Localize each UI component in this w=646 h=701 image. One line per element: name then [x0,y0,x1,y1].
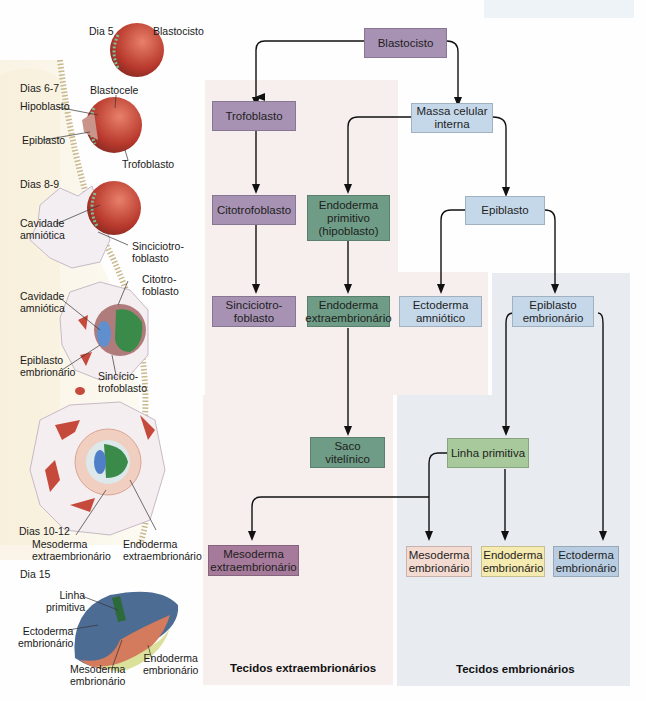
node-epiblasto-embrionario: Epiblasto embrionário [512,296,594,327]
node-ectoderma-embrionario: Ectoderma embrionário [553,546,619,577]
node-mesoderma-embrionario: Mesoderma embrionário [406,546,472,577]
label-ectoderma-embrionario: Ectoderma embrionário [18,625,73,649]
label-tecidos-embrionarios: Tecidos embrionários [456,663,575,675]
label-sinciciotrofoblasto-2: Sincício- trofoblasto [98,370,147,394]
label-dias1012: Dias 10-12 [19,525,70,537]
node-endoderma-embrionario: Endoderma embrionário [481,546,545,577]
label-dia5: Dia 5 [89,25,114,37]
node-trofoblasto: Trofoblasto [212,101,296,131]
label-trofoblasto: Trofoblasto [122,158,174,170]
label-mesoderma-embrionario: Mesoderma embrionário [70,663,125,687]
node-sinciciotrofoblasto: Sinciciotro- foblasto [212,296,296,327]
node-epiblasto: Epiblasto [465,196,545,225]
label-tecidos-extraembrionarios: Tecidos extraembrionários [230,662,376,674]
node-saco-vitelinico: Saco vitelínico [310,437,385,468]
label-dia15: Dia 15 [20,568,50,580]
node-linha-primitiva: Linha primitiva [447,438,529,468]
label-mesoderma-extraembrionario: Mesoderma extraembrionário [32,538,111,562]
label-hipoblasto: Hipoblasto [20,100,70,112]
label-dias67: Dias 6-7 [20,82,59,94]
node-endoderma-extraembrionario: Endoderma extraembrionário [307,296,390,327]
label-blastocele: Blastocele [90,84,138,96]
node-mesoderma-extraembrionario: Mesoderma extraembrionário [208,545,299,576]
node-blastocisto: Blastocisto [364,28,447,58]
label-cavidade-amniotica-2: Cavidade amniótica [20,290,65,314]
label-dias89: Dias 8-9 [20,178,59,190]
node-endoderma-primitivo: Endoderma primitivo (hipoblasto) [307,195,390,241]
label-cavidade-amniotica-1: Cavidade amniótica [20,217,65,241]
label-endoderma-extraembrionario: Endoderma extraembrionário [123,538,202,562]
label-blastocisto-illus: Blastocisto [153,25,204,37]
node-citotrofoblasto: Citotrofoblasto [212,195,296,225]
label-epiblasto: Epiblasto [22,134,65,146]
label-endoderma-embrionario: Endoderma embrionário [143,652,198,676]
node-ectoderma-amniotico: Ectoderma amniótico [399,296,482,327]
node-massa-celular-interna: Massa celular interna [411,103,493,133]
label-linha-primitiva: Linha primitiva [46,589,85,613]
label-citotrofoblasto: Citotro- foblasto [142,273,179,297]
label-sinciciotrofoblasto-1: Sinciciotro- foblasto [132,240,184,264]
label-epiblasto-embrionario: Epiblasto embrionário [20,354,75,378]
